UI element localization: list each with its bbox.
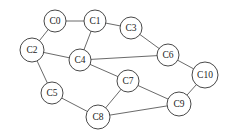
node-label: C3 bbox=[125, 23, 136, 33]
node-c9: C9 bbox=[167, 92, 191, 116]
node-label: C0 bbox=[49, 16, 60, 26]
node-label: C8 bbox=[92, 112, 103, 122]
node-c0: C0 bbox=[44, 10, 66, 32]
node-c4: C4 bbox=[69, 49, 91, 71]
node-c3: C3 bbox=[120, 17, 142, 39]
node-c8: C8 bbox=[86, 105, 110, 129]
node-c6: C6 bbox=[157, 44, 179, 66]
node-label: C10 bbox=[197, 70, 213, 80]
edge-c4-c6 bbox=[80, 55, 168, 60]
node-c2: C2 bbox=[20, 38, 44, 62]
node-label: C2 bbox=[26, 45, 37, 55]
node-label: C9 bbox=[173, 99, 184, 109]
nodes-layer: C0C1C3C2C4C6C10C7C5C9C8 bbox=[20, 10, 218, 129]
node-label: C7 bbox=[122, 76, 133, 86]
node-c10: C10 bbox=[192, 62, 218, 88]
graph-diagram: C0C1C3C2C4C6C10C7C5C9C8 bbox=[0, 0, 231, 136]
node-label: C5 bbox=[46, 88, 57, 98]
node-label: C4 bbox=[74, 55, 85, 65]
node-c1: C1 bbox=[84, 10, 106, 32]
node-c5: C5 bbox=[41, 82, 63, 104]
node-c7: C7 bbox=[117, 70, 139, 92]
node-label: C6 bbox=[162, 50, 173, 60]
node-label: C1 bbox=[89, 16, 100, 26]
